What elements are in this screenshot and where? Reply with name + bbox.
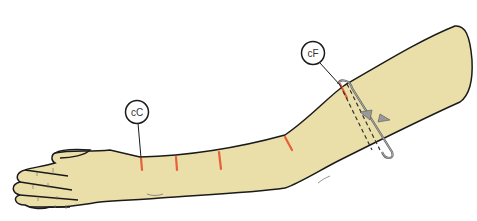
arm-diagram: cC cF [0,0,477,221]
label-cC: cC [126,101,149,159]
label-cC-text: cC [131,107,143,118]
label-cF: cF [302,42,341,86]
arm-shape [13,26,472,209]
elbow-crease [318,176,330,183]
label-cF-text: cF [307,48,318,59]
arm-illustration: cC cF [0,0,477,221]
